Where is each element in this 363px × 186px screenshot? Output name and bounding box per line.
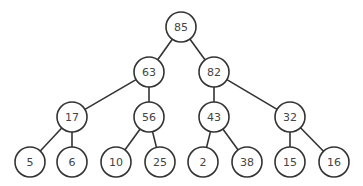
tree-node: 85: [166, 12, 196, 42]
node-value: 16: [327, 156, 341, 169]
tree-edges: [40, 39, 323, 151]
tree-edge: [223, 129, 238, 150]
tree-edge: [125, 129, 140, 150]
tree-edge: [227, 80, 277, 110]
node-value: 5: [27, 156, 34, 169]
tree-node: 38: [232, 147, 262, 177]
node-value: 82: [207, 66, 221, 79]
tree-node: 5: [15, 147, 45, 177]
tree-edge: [158, 39, 173, 60]
tree-node: 10: [101, 147, 131, 177]
node-value: 43: [207, 111, 221, 124]
tree-edge: [300, 128, 323, 152]
tree-edge: [85, 80, 136, 110]
node-value: 15: [283, 156, 297, 169]
tree-node: 6: [57, 147, 87, 177]
tree-node: 43: [199, 102, 229, 132]
tree-edge: [153, 132, 157, 148]
tree-node: 63: [134, 57, 164, 87]
node-value: 56: [142, 111, 156, 124]
tree-node: 17: [57, 102, 87, 132]
node-value: 63: [142, 66, 156, 79]
binary-tree-diagram: 856382175643325610252381516: [0, 0, 363, 186]
node-value: 17: [65, 111, 79, 124]
tree-edge: [190, 39, 205, 60]
tree-node: 16: [319, 147, 349, 177]
node-value: 10: [109, 156, 123, 169]
node-value: 6: [69, 156, 76, 169]
tree-node: 82: [199, 57, 229, 87]
tree-node: 15: [275, 147, 305, 177]
tree-node: 32: [275, 102, 305, 132]
tree-edge: [207, 132, 211, 148]
node-value: 85: [174, 21, 188, 34]
tree-edge: [40, 128, 62, 151]
node-value: 32: [283, 111, 297, 124]
tree-nodes: 856382175643325610252381516: [15, 12, 349, 177]
node-value: 25: [153, 156, 167, 169]
node-value: 2: [200, 156, 207, 169]
node-value: 38: [240, 156, 254, 169]
tree-node: 25: [145, 147, 175, 177]
tree-node: 2: [188, 147, 218, 177]
tree-node: 56: [134, 102, 164, 132]
